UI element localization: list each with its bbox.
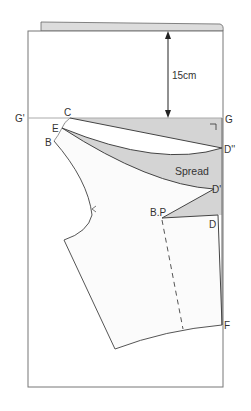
point-label-bp: B.P	[150, 207, 166, 218]
measurement-label: 15cm	[172, 70, 196, 81]
spread-label: Spread	[175, 165, 209, 177]
point-label-b: B	[45, 137, 52, 148]
point-label-f: F	[224, 320, 230, 331]
paper-fold-strip	[41, 22, 223, 31]
point-label-g-prime: G'	[15, 113, 25, 124]
point-label-d-double-prime: D''	[224, 144, 235, 155]
point-label-g: G	[225, 114, 233, 125]
point-label-c: C	[64, 107, 71, 118]
pattern-diagram: 15cm G' C G E B D'' Spread D' B.P D F	[0, 0, 251, 411]
point-label-d-prime: D'	[212, 184, 221, 195]
point-label-d: D	[209, 219, 216, 230]
point-label-e: E	[52, 123, 59, 134]
